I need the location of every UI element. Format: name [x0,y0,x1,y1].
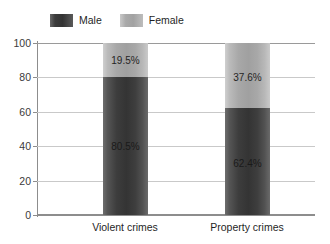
y-tick-label-20: 20 [19,175,31,187]
plot-area: 100 80 60 40 20 0 19.5% 80.5% [37,43,315,215]
gridline-60: 60 [37,112,315,113]
bar-value-property-female: 37.6% [225,73,270,83]
male-swatch-icon [50,14,73,27]
y-tick-label-60: 60 [19,106,31,118]
bar-value-property-male: 62.4% [225,159,270,169]
x-category-label-property-crimes: Property crimes [182,221,312,233]
bar-value-violent-male: 80.5% [103,142,148,152]
legend-label-female: Female [149,15,184,26]
tick-mark-20 [33,181,37,182]
gridline-100: 100 [37,43,315,44]
y-axis-line [37,41,38,217]
tick-mark-80 [33,77,37,78]
y-tick-label-40: 40 [19,140,31,152]
tick-mark-60 [33,112,37,113]
chart-legend: Male Female [50,11,184,29]
legend-item-female: Female [120,14,184,27]
legend-item-male: Male [50,14,102,27]
gridline-20: 20 [37,181,315,182]
bar-value-violent-female: 19.5% [103,56,148,66]
gridline-80: 80 [37,77,315,78]
y-tick-label-80: 80 [19,71,31,83]
tick-mark-100 [33,43,37,44]
gridline-0: 0 [37,215,315,216]
y-tick-label-0: 0 [25,209,31,221]
legend-label-male: Male [79,15,102,26]
tick-mark-0 [33,215,37,216]
tick-mark-40 [33,146,37,147]
gridline-40: 40 [37,146,315,147]
female-swatch-icon [120,14,143,27]
y-tick-label-100: 100 [13,37,31,49]
x-category-label-violent-crimes: Violent crimes [60,221,190,233]
stacked-bar-chart: Male Female 100 80 60 40 20 [0,0,330,244]
